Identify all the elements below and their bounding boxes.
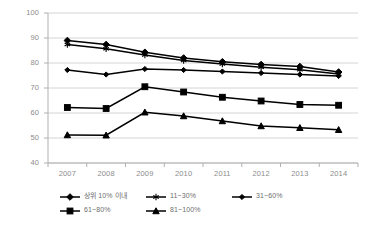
legend-item-label: 11~30%	[168, 192, 196, 199]
x-tick-label: 2014	[319, 169, 359, 178]
data-point-s2-3	[181, 67, 186, 72]
data-point-s3-7	[336, 102, 342, 108]
legend-item[interactable]: 61~80%	[58, 202, 144, 216]
legend-item[interactable]: 31~60%	[230, 188, 316, 202]
data-point-s2-1	[104, 72, 109, 77]
data-point-s3-4	[219, 94, 225, 100]
data-point-s2-2	[142, 66, 147, 71]
square-marker-icon	[58, 203, 82, 215]
y-tick-label: 50	[17, 133, 39, 142]
legend-item[interactable]: 상위 10% 이내	[58, 188, 144, 202]
chart-container: 100908070605040 200720082009201020112012…	[0, 0, 372, 233]
x-tick-label: 2007	[47, 169, 87, 178]
asterisk-marker-icon	[144, 189, 168, 201]
y-tick-label: 80	[17, 58, 39, 67]
diamond-glyph	[67, 194, 74, 201]
series-line-4	[67, 112, 338, 135]
y-tick-label: 90	[17, 33, 39, 42]
x-tick-marks	[44, 13, 358, 167]
data-point-s3-2	[142, 84, 148, 90]
x-tick-label: 2010	[164, 169, 204, 178]
y-tick-label: 40	[17, 158, 39, 167]
x-tick-label: 2011	[202, 169, 242, 178]
diamond-marker-icon	[58, 189, 82, 201]
legend-item-label: 31~60%	[254, 192, 282, 199]
legend-item[interactable]: 81~100%	[144, 202, 230, 216]
legend-item[interactable]: 11~30%	[144, 188, 230, 202]
data-point-s2-5	[259, 70, 264, 75]
data-point-s2-4	[220, 69, 225, 74]
small-diamond-glyph	[239, 194, 244, 199]
y-tick-label: 70	[17, 83, 39, 92]
data-point-s3-1	[103, 106, 109, 112]
data-point-s3-6	[297, 102, 303, 108]
legend-row: 상위 10% 이내11~30%31~60%	[58, 188, 320, 202]
x-tick-label: 2012	[241, 169, 281, 178]
legend-row: 61~80%81~100%	[58, 202, 320, 216]
x-tick-label: 2008	[86, 169, 126, 178]
data-point-s3-0	[64, 105, 70, 111]
gridlines	[48, 13, 358, 163]
square-glyph	[67, 208, 73, 214]
y-tick-label: 60	[17, 108, 39, 117]
small-diamond-marker-icon	[230, 189, 254, 201]
data-point-s2-6	[297, 72, 302, 77]
x-tick-label: 2013	[280, 169, 320, 178]
legend-item-label: 상위 10% 이내	[82, 190, 127, 200]
chart-legend: 상위 10% 이내11~30%31~60%61~80%81~100%	[58, 188, 320, 216]
legend-item-label: 61~80%	[82, 206, 110, 213]
data-point-s3-3	[181, 89, 187, 95]
data-point-s2-0	[65, 67, 70, 72]
data-point-s3-5	[258, 98, 264, 104]
triangle-marker-icon	[144, 203, 168, 215]
legend-item-label: 81~100%	[168, 206, 200, 213]
x-tick-label: 2009	[125, 169, 165, 178]
y-tick-label: 100	[17, 8, 39, 17]
